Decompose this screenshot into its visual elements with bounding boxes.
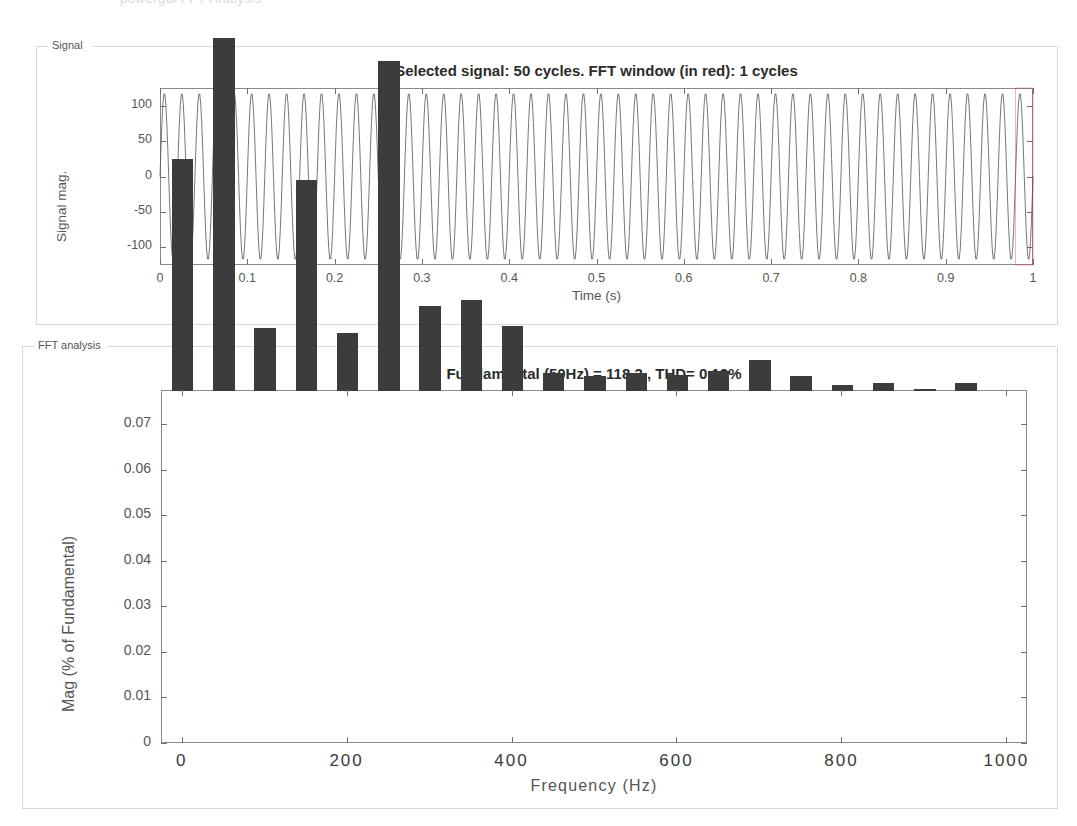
signal-x-tick [597,259,598,265]
signal-y-tick-right [1027,212,1033,213]
bar [502,326,523,391]
signal-x-tick [422,259,423,265]
bar [419,306,440,391]
signal-x-tick-top [597,88,598,94]
fft-y-tick-label: 0.05 [0,505,151,521]
bar [914,389,935,391]
fft-y-tick [161,697,167,698]
fft-x-tick [841,737,842,743]
fft-y-tick-right [1021,743,1027,744]
fft-y-tick-right [1021,424,1027,425]
fft-x-tick-label: 800 [791,751,891,771]
signal-y-tick [160,212,166,213]
signal-y-tick [160,247,166,248]
signal-y-tick-label: 0 [0,168,152,182]
fft-y-tick [161,606,167,607]
fft-x-tick-top [1006,390,1007,396]
signal-x-tick-label: 0.7 [741,271,801,285]
signal-x-tick-label: 0.8 [828,271,888,285]
signal-y-axis-label: Signal mag. [54,171,69,242]
fft-x-tick-label: 400 [462,751,562,771]
bar [543,373,564,391]
signal-y-tick [160,106,166,107]
fft-y-tick-right [1021,561,1027,562]
fft-y-tick-right [1021,652,1027,653]
signal-y-tick-right [1027,247,1033,248]
fft-x-tick-top [182,390,183,396]
bar [626,373,647,391]
signal-x-tick-top [160,88,161,94]
bar [584,376,605,391]
fft-y-tick [161,470,167,471]
signal-x-tick-label: 1 [1003,271,1063,285]
fft-x-tick [182,737,183,743]
fft-y-tick [161,561,167,562]
signal-x-tick-label: 0.9 [916,271,976,285]
signal-x-tick-label: 0.6 [654,271,714,285]
bar [461,300,482,391]
signal-x-tick-top [509,88,510,94]
bar [296,180,317,391]
fft-y-tick-label: 0 [0,733,151,749]
fft-y-tick [161,515,167,516]
bar [667,375,688,391]
fft-y-tick [161,652,167,653]
fft-x-tick-top [676,390,677,396]
fft-y-axis-label: Mag (% of Fundamental) [60,536,78,712]
fft-x-tick-label: 0 [132,751,232,771]
fft-x-tick-top [841,390,842,396]
signal-x-tick [509,259,510,265]
signal-y-tick-label: 100 [0,97,152,111]
signal-x-tick [247,259,248,265]
signal-x-tick-top [946,88,947,94]
signal-x-tick [946,259,947,265]
signal-x-tick [1033,259,1034,265]
signal-x-tick-top [1033,88,1034,94]
signal-x-tick [335,259,336,265]
signal-y-tick-label: 50 [0,132,152,146]
signal-x-tick-label: 0.5 [567,271,627,285]
signal-y-tick-right [1027,141,1033,142]
fft-y-tick-label: 0.07 [0,414,151,430]
signal-x-tick-top [684,88,685,94]
signal-x-tick-top [335,88,336,94]
signal-x-tick-label: 0.4 [479,271,539,285]
signal-y-tick-label: -100 [0,238,152,252]
signal-x-axis-label: Time (s) [160,288,1033,303]
fft-x-tick-top [347,390,348,396]
signal-x-tick [771,259,772,265]
fft-x-tick [347,737,348,743]
fft-plot-axes [161,390,1027,743]
bar [749,360,770,391]
fft-x-tick-label: 600 [626,751,726,771]
fft-x-tick [1006,737,1007,743]
signal-x-tick-label: 0.3 [392,271,452,285]
fft-x-tick [676,737,677,743]
signal-x-tick-top [771,88,772,94]
signal-x-tick [684,259,685,265]
bar [337,333,358,391]
signal-y-tick-label: -50 [0,203,152,217]
signal-y-tick [160,177,166,178]
signal-x-tick-top [422,88,423,94]
fft-group-border-right [108,346,1056,347]
fft-y-tick-right [1021,515,1027,516]
signal-y-tick-right [1027,177,1033,178]
bar [708,371,729,391]
signal-y-tick-right [1027,106,1033,107]
signal-y-tick [160,141,166,142]
bar [254,328,275,391]
signal-x-tick-top [247,88,248,94]
bar [790,376,811,391]
fft-y-tick-right [1021,697,1027,698]
bar [378,61,399,391]
fft-x-tick-label: 1000 [956,751,1056,771]
fft-x-tick-top [512,390,513,396]
signal-x-tick [160,259,161,265]
bar [873,383,894,391]
fft-x-tick-label: 200 [297,751,397,771]
fft-x-axis-label: Frequency (Hz) [161,777,1027,795]
fft-y-tick [161,424,167,425]
fft-y-tick-right [1021,470,1027,471]
bar [955,383,976,391]
